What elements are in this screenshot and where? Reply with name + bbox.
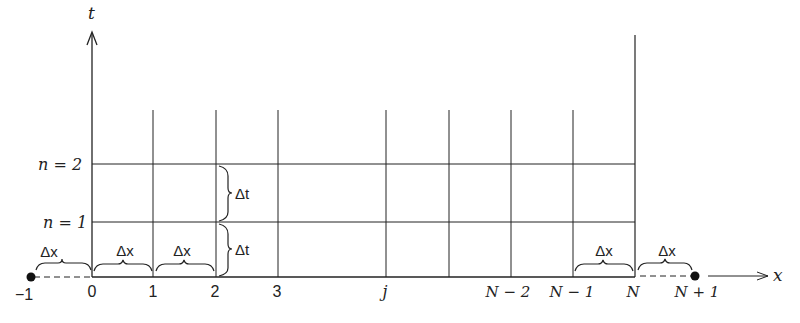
node-label-2: 2 xyxy=(211,283,220,300)
dx-brace-N1-N xyxy=(575,260,633,271)
dt-label-1: Δt xyxy=(235,185,250,202)
ghost-point-minus1 xyxy=(27,273,36,282)
node-label-N: N xyxy=(625,283,640,301)
node-label-0: 0 xyxy=(88,283,97,300)
dt-brace-n1-n2 xyxy=(219,166,232,221)
node-label-minus1: −1 xyxy=(15,286,33,303)
dx-label-5: Δx xyxy=(658,242,676,259)
node-label-j: j xyxy=(380,282,388,301)
node-label-N-plus-1: N + 1 xyxy=(674,283,720,301)
node-label-3: 3 xyxy=(273,283,282,300)
ghost-point-N-plus-1 xyxy=(691,272,700,281)
dx-brace-0-1 xyxy=(94,260,152,271)
dx-label-2: Δx xyxy=(116,242,134,259)
dt-brace-0-n1 xyxy=(219,224,232,276)
dt-label-2: Δt xyxy=(235,241,250,258)
time-label-n1: n = 1 xyxy=(43,213,87,232)
time-label-n2: n = 2 xyxy=(38,155,82,174)
dx-label-3: Δx xyxy=(173,242,191,259)
x-axis-label: x xyxy=(773,265,783,285)
t-axis-label: t xyxy=(88,3,95,23)
node-label-N-1: N − 1 xyxy=(549,283,595,301)
finite-difference-grid: t x n = 2 n = 1 Δx Δx Δx Δx Δx Δt Δt −1 … xyxy=(0,0,800,323)
dx-label-4: Δx xyxy=(595,242,613,259)
node-label-N-2: N − 2 xyxy=(485,283,531,301)
node-label-1: 1 xyxy=(149,283,158,300)
dx-brace-N-N1 xyxy=(638,259,692,270)
dx-brace-minus1-0 xyxy=(36,259,91,270)
dx-label-1: Δx xyxy=(40,243,58,260)
dx-brace-1-2 xyxy=(156,260,214,271)
